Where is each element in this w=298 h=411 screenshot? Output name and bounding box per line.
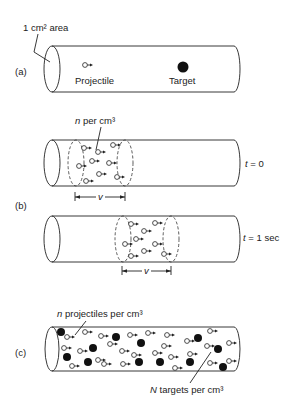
cylinder-b-t0 — [44, 140, 240, 186]
panel-b-t1: t = 1 sec v — [44, 216, 279, 276]
distance-marker-t1: v — [122, 265, 171, 276]
time-label-t1: t = 1 sec — [243, 232, 279, 243]
density-label: n per cm³ — [75, 115, 115, 126]
panel-a-label: (a) — [15, 66, 27, 77]
target-icon — [178, 62, 189, 73]
svg-text:v: v — [144, 265, 150, 276]
targets-leader-line — [190, 352, 211, 383]
targets-group — [57, 328, 227, 371]
target-label: Target — [169, 75, 196, 86]
panel-c: n projectiles per cm³ (c) — [15, 308, 240, 395]
projectile-group-t1 — [123, 221, 172, 259]
cylinder-a — [44, 46, 240, 92]
distance-marker-t0: v — [75, 191, 125, 202]
panel-b-t0: n per cm³ t = 0 — [15, 115, 264, 211]
density-leader-line — [96, 127, 101, 150]
panel-b-label: (b) — [15, 200, 27, 211]
targets-density-label: N targets per cm³ — [150, 384, 223, 395]
projectiles-density-label: n projectiles per cm³ — [57, 308, 143, 319]
panel-c-label: (c) — [15, 347, 26, 358]
projectile-icon — [83, 63, 93, 68]
area-label: 1 cm² area — [23, 22, 69, 33]
panel-a: 1 cm² area (a) Projectile Target — [15, 22, 240, 92]
projectile-label: Projectile — [75, 75, 114, 86]
scattering-diagram: 1 cm² area (a) Projectile Target n per c… — [0, 0, 298, 411]
svg-text:v: v — [98, 191, 104, 202]
area-leader-line — [34, 34, 50, 62]
time-label-t0: t = 0 — [245, 158, 264, 169]
